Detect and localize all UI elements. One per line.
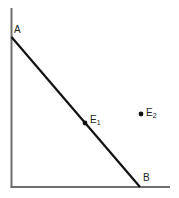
label-a-text: A: [14, 24, 21, 35]
label-e2: E2: [146, 108, 157, 119]
label-e1-text: E: [90, 114, 97, 125]
label-e1: E1: [90, 115, 101, 126]
line-ab: [12, 37, 141, 187]
label-e1-sub: 1: [97, 119, 101, 126]
point-e2: [139, 112, 144, 117]
diagram-canvas: [0, 0, 179, 198]
label-b: B: [143, 173, 150, 183]
point-e1: [83, 121, 88, 126]
label-b-text: B: [143, 172, 150, 183]
label-e2-text: E: [146, 107, 153, 118]
label-e2-sub: 2: [153, 112, 157, 119]
label-a: A: [14, 25, 21, 35]
